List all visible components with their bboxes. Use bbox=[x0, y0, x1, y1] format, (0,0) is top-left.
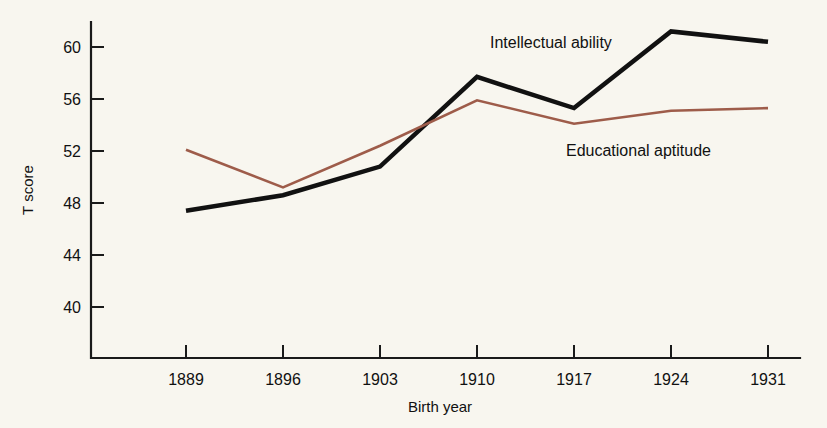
x-tick-label-1903: 1903 bbox=[362, 371, 398, 388]
y-axis-ticks bbox=[91, 47, 104, 307]
y-axis-tick-labels: 60 56 52 48 44 40 bbox=[63, 39, 81, 316]
x-tick-label-1931: 1931 bbox=[750, 371, 786, 388]
x-tick-label-1917: 1917 bbox=[556, 371, 592, 388]
y-tick-label-60: 60 bbox=[63, 39, 81, 56]
series-label-intellectual-ability: Intellectual ability bbox=[490, 34, 612, 51]
y-axis-title: T score bbox=[19, 165, 36, 215]
y-tick-label-52: 52 bbox=[63, 143, 81, 160]
series-label-educational-aptitude: Educational aptitude bbox=[566, 142, 711, 159]
x-tick-label-1924: 1924 bbox=[653, 371, 689, 388]
x-tick-label-1889: 1889 bbox=[168, 371, 204, 388]
x-axis-ticks bbox=[186, 345, 768, 358]
chart-figure: 60 56 52 48 44 40 T score 1889 1896 1903… bbox=[0, 0, 827, 428]
y-tick-label-40: 40 bbox=[63, 299, 81, 316]
x-axis-title: Birth year bbox=[408, 398, 472, 415]
line-chart-canvas: 60 56 52 48 44 40 T score 1889 1896 1903… bbox=[0, 0, 827, 428]
axis-frame bbox=[91, 22, 800, 358]
y-tick-label-48: 48 bbox=[63, 195, 81, 212]
x-tick-label-1896: 1896 bbox=[265, 371, 301, 388]
x-axis-tick-labels: 1889 1896 1903 1910 1917 1924 1931 bbox=[168, 371, 786, 388]
x-tick-label-1910: 1910 bbox=[459, 371, 495, 388]
y-tick-label-56: 56 bbox=[63, 91, 81, 108]
y-tick-label-44: 44 bbox=[63, 247, 81, 264]
